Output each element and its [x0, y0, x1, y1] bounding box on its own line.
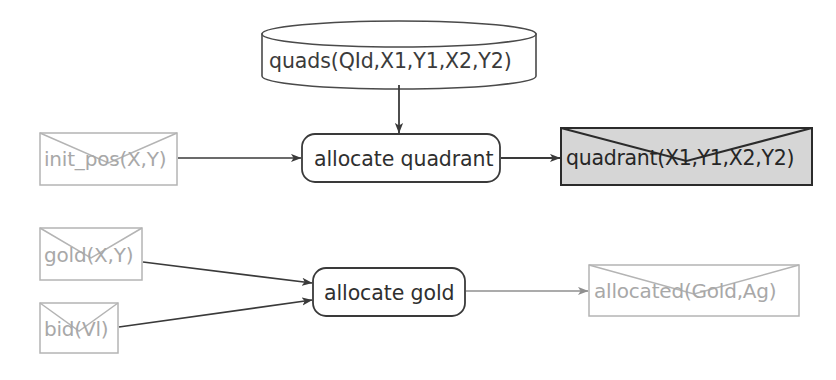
dataflow-diagram: quads(QId,X1,Y1,X2,Y2) init_pos(X,Y) all…	[0, 0, 836, 380]
gold-message-shape	[40, 228, 142, 280]
allocated-message-shape	[589, 265, 799, 316]
diagram-canvas	[0, 0, 836, 380]
edge-bid-to-allocate-gold	[119, 300, 312, 327]
edge-gold-to-allocate-gold	[143, 262, 312, 283]
quadrant-message-shape	[561, 128, 812, 185]
bid-message-shape	[40, 303, 118, 353]
allocate-quadrant-process-shape	[302, 134, 500, 182]
init-pos-message-shape	[40, 133, 177, 185]
allocate-gold-process-shape	[313, 268, 465, 316]
quads-store-shape	[262, 21, 536, 89]
